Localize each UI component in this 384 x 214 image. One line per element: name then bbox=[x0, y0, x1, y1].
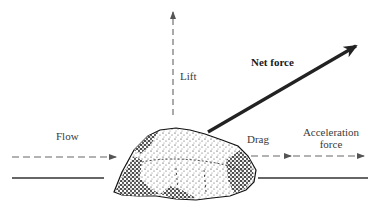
net-force-label: Net force bbox=[251, 56, 294, 68]
acceleration-label-line1: Acceleration bbox=[296, 126, 366, 138]
force-diagram: Lift Net force Flow Drag Acceleration fo… bbox=[0, 0, 384, 214]
flow-label: Flow bbox=[56, 130, 79, 142]
lift-label: Lift bbox=[180, 70, 197, 82]
rock-particle bbox=[114, 128, 256, 200]
diagram-graphics bbox=[0, 0, 384, 214]
acceleration-label-line2: force bbox=[296, 138, 366, 150]
acceleration-force-label: Acceleration force bbox=[296, 126, 366, 150]
drag-label: Drag bbox=[247, 133, 269, 145]
